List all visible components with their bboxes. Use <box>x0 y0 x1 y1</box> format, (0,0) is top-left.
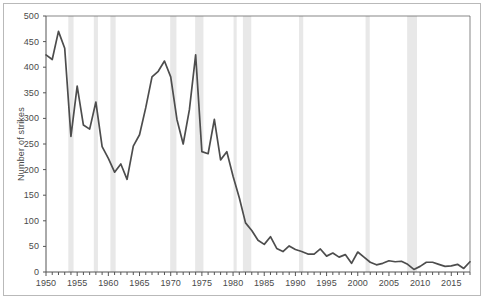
recession-band <box>110 16 115 272</box>
recession-band <box>407 16 417 272</box>
recession-band <box>68 16 73 272</box>
recession-band <box>234 16 237 272</box>
axes-group <box>46 16 470 272</box>
strikes-line-series <box>46 31 470 269</box>
recession-band <box>243 16 251 272</box>
chart-plot-area <box>0 0 485 300</box>
recession-band <box>170 16 176 272</box>
recession-band <box>299 16 303 272</box>
chart-screenshot: Number of strikes 0501001502002503003504… <box>0 0 485 300</box>
recession-band <box>366 16 370 272</box>
recession-bands-group <box>68 16 417 272</box>
recession-band <box>94 16 98 272</box>
